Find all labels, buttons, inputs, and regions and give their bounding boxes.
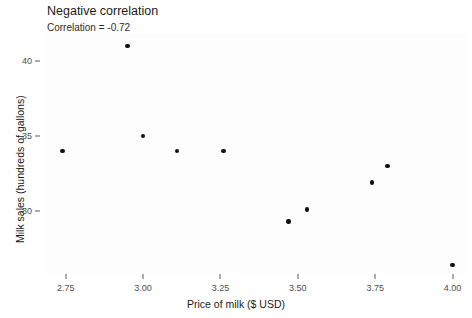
x-tick-mark <box>143 274 144 279</box>
chart-title: Negative correlation <box>47 4 158 19</box>
scatter-chart-figure: Negative correlation Correlation = -0.72… <box>0 0 472 318</box>
x-tick-mark <box>220 274 221 279</box>
plot-panel <box>44 34 468 274</box>
data-point <box>60 149 64 153</box>
y-tick-mark <box>35 211 40 212</box>
x-tick-mark <box>65 274 66 279</box>
y-tick-mark <box>35 136 40 137</box>
x-tick-mark <box>297 274 298 279</box>
x-tick-label: 3.25 <box>212 283 230 293</box>
data-point <box>286 219 290 223</box>
data-point <box>221 149 225 153</box>
data-point <box>125 44 129 48</box>
x-tick-label: 3.75 <box>366 283 384 293</box>
y-tick-mark <box>35 61 40 62</box>
x-tick-label: 4.00 <box>444 283 462 293</box>
x-tick-mark <box>452 274 453 279</box>
x-axis-label: Price of milk ($ USD) <box>0 298 472 310</box>
data-point <box>370 180 374 184</box>
x-tick-label: 2.75 <box>57 283 75 293</box>
y-axis-label: Milk sales (hundreds of gallons) <box>14 95 26 243</box>
data-point <box>305 207 309 211</box>
x-axis: 2.753.003.253.503.754.00 Price of milk (… <box>0 274 472 318</box>
data-point <box>450 263 454 267</box>
x-tick-mark <box>375 274 376 279</box>
x-tick-label: 3.00 <box>134 283 152 293</box>
data-point <box>141 134 145 138</box>
chart-subtitle: Correlation = -0.72 <box>47 21 130 34</box>
data-point <box>385 164 389 168</box>
x-tick-label: 3.50 <box>289 283 307 293</box>
data-point <box>175 149 179 153</box>
y-tick-label: 40 <box>22 56 32 66</box>
